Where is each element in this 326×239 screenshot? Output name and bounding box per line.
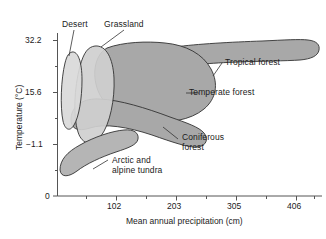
x-tick-label-406: 406 [287,201,301,211]
x-axis-title: Mean annual precipitation (cm) [126,216,243,226]
annotation-desert: Desert [62,20,88,30]
chart-plot-area [0,0,326,239]
y-tick-label-15-6: 15.6 [25,87,42,97]
annotation-temperate-forest: Temperate forest [189,88,254,98]
whittaker-biome-chart: 32.2 15.6 −1.1 0 102 203 305 406 Tempera… [0,0,326,239]
annotation-coniferous-forest-line2: forest [182,143,204,153]
y-axis-title: Temperature (°C) [14,85,24,150]
y-tick-label-minus-1-1: −1.1 [26,139,43,149]
annotation-tundra-line2: alpine tundra [112,166,162,176]
x-tick-label-203: 203 [167,201,181,211]
annotation-tropical-forest: Tropical forest [225,58,280,68]
leader-tundra [93,160,108,169]
annotation-grassland: Grassland [104,20,144,30]
x-tick-label-305: 305 [227,201,241,211]
y-tick-label-32-2: 32.2 [25,35,42,45]
x-tick-label-102: 102 [107,201,121,211]
y-tick-label-0: 0 [45,191,50,201]
leader-tropical [213,63,222,76]
